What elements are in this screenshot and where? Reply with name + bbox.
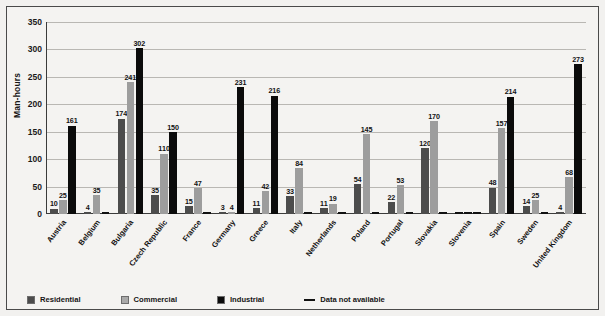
bar-group: 174241302Bulgaria <box>114 22 148 214</box>
bar-group: 435Belgium <box>80 22 114 214</box>
bar-value-label: 11 <box>253 200 261 207</box>
bar-value-label: 68 <box>565 169 573 176</box>
bar-value-label: 4 <box>230 204 234 211</box>
bar: 11 <box>253 208 261 214</box>
bar: 231 <box>237 87 245 214</box>
legend-label: Commercial <box>134 295 177 304</box>
bar: 22 <box>388 202 396 214</box>
bar-value-label: 48 <box>489 179 497 186</box>
y-axis-tick-label: 150 <box>28 127 42 137</box>
bar: 4 <box>84 212 92 214</box>
bar-value-label: 10 <box>50 200 58 207</box>
y-axis-tick-label: 0 <box>37 209 42 219</box>
bar-group: 2253Portugal <box>384 22 418 214</box>
bar: 241 <box>127 82 135 214</box>
bar: 216 <box>271 96 279 214</box>
bar-value-label: 4 <box>86 204 90 211</box>
bar: 120 <box>421 148 429 214</box>
y-axis-tick-label: 200 <box>28 99 42 109</box>
bar: 273 <box>574 64 582 214</box>
bar: 157 <box>498 128 506 214</box>
bar-group: 35110150Czech Republic <box>147 22 181 214</box>
legend-item: Data not available <box>304 295 385 304</box>
data-not-available-marker <box>455 212 463 214</box>
legend-item: Industrial <box>217 295 264 304</box>
legend-item: Residential <box>27 295 81 304</box>
chart-figure: Man-hours 050100150200250300350 1025161A… <box>0 0 605 316</box>
bar-value-label: 231 <box>235 79 247 86</box>
legend-label: Residential <box>40 295 81 304</box>
bar-group: 120170Slovakia <box>417 22 451 214</box>
bar-value-label: 11 <box>320 200 328 207</box>
bar: 84 <box>295 168 303 214</box>
bar-value-label: 42 <box>261 183 269 190</box>
bar-value-label: 19 <box>329 195 337 202</box>
bar-value-label: 3 <box>221 204 225 211</box>
y-axis-tick-label: 350 <box>28 17 42 27</box>
legend-swatch-icon <box>27 296 35 304</box>
bar-value-label: 145 <box>361 126 373 133</box>
bar-group: 3384Italy <box>282 22 316 214</box>
bar-group: 54145Poland <box>350 22 384 214</box>
bar: 3 <box>219 212 227 214</box>
bar-value-label: 53 <box>396 177 404 184</box>
legend-label: Data not available <box>320 295 385 304</box>
legend-swatch-icon <box>121 296 129 304</box>
bar-value-label: 14 <box>522 198 530 205</box>
bar: 11 <box>320 208 328 214</box>
bar-group: Slovenia <box>451 22 485 214</box>
bar-value-label: 150 <box>167 124 179 131</box>
bar-value-label: 241 <box>124 74 136 81</box>
bar-value-label: 15 <box>185 198 193 205</box>
legend-swatch-icon <box>217 296 225 304</box>
bar: 48 <box>489 188 497 214</box>
bar-value-label: 33 <box>286 188 294 195</box>
bar-group: 1142216Greece <box>249 22 283 214</box>
bar-value-label: 84 <box>295 160 303 167</box>
bar-group: 1025161Austria <box>46 22 80 214</box>
bar: 174 <box>118 119 126 214</box>
bar-value-label: 161 <box>66 117 78 124</box>
bar-group: 48157214Spain <box>485 22 519 214</box>
bar-value-label: 157 <box>496 120 508 127</box>
bar-value-label: 302 <box>133 40 145 47</box>
legend-item: Commercial <box>121 295 177 304</box>
bar: 170 <box>430 121 438 214</box>
bar-value-label: 4 <box>558 204 562 211</box>
y-axis-tick-label: 50 <box>33 182 42 192</box>
bar-value-label: 25 <box>59 192 67 199</box>
bar: 110 <box>160 154 168 214</box>
bar-value-label: 54 <box>354 176 362 183</box>
bar: 302 <box>136 48 144 214</box>
bar-value-label: 120 <box>419 140 431 147</box>
bar: 54 <box>354 184 362 214</box>
bar-value-label: 110 <box>158 145 170 152</box>
bar-group: 1425Sweden <box>519 22 553 214</box>
bar: 10 <box>50 209 58 214</box>
bar: 33 <box>286 196 294 214</box>
bar-value-label: 47 <box>194 180 202 187</box>
y-axis-tick-label: 300 <box>28 44 42 54</box>
bar-value-label: 35 <box>151 187 159 194</box>
bar: 15 <box>185 206 193 214</box>
bar-group: 1119Netherlands <box>316 22 350 214</box>
bar-value-label: 25 <box>531 192 539 199</box>
y-axis-tick-label: 100 <box>28 154 42 164</box>
bar-value-label: 170 <box>428 113 440 120</box>
y-axis-tick-label: 250 <box>28 72 42 82</box>
bar-value-label: 273 <box>572 56 584 63</box>
bar-value-label: 174 <box>115 110 127 117</box>
bar: 35 <box>151 195 159 214</box>
bar-value-label: 22 <box>387 194 395 201</box>
chart-legend: ResidentialCommercialIndustrialData not … <box>27 295 425 304</box>
bar-value-label: 216 <box>268 87 280 94</box>
bar: 4 <box>556 212 564 214</box>
bar: 14 <box>523 206 531 214</box>
legend-dash-icon <box>304 299 315 301</box>
bar-value-label: 35 <box>93 187 101 194</box>
bar: 68 <box>565 177 573 214</box>
bar-group: 34231Germany <box>215 22 249 214</box>
y-axis-title: Man-hours <box>12 73 22 118</box>
plot-area: 050100150200250300350 1025161Austria435B… <box>46 22 586 214</box>
bar: 145 <box>363 134 371 214</box>
